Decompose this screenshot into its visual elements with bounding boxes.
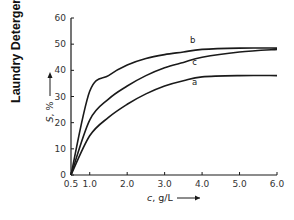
curve-b [71,48,277,175]
line-chart: 01020304050600.51.02.03.04.05.06.0c, g/L… [0,0,294,220]
y-tick-label: 30 [55,92,67,102]
curve-a [71,75,277,175]
y-tick-label: 40 [55,65,67,75]
x-tick-label: 1.0 [83,179,98,189]
y-tick-label: 50 [55,39,67,49]
chart-axes: 01020304050600.51.02.03.04.05.06.0c, g/L… [44,13,284,203]
x-tick-label: 0.5 [64,179,78,189]
x-axis-label: c, g/L [147,192,174,203]
y-arrow-head [48,72,53,78]
curve-label-b: b [190,35,195,45]
y-tick-label: 10 [55,144,67,154]
y-axis-label: S, % [44,101,55,122]
x-tick-label: 5.0 [232,179,247,189]
chart-curves [71,48,277,175]
curve-c [71,49,277,175]
x-tick-label: 4.0 [195,179,210,189]
x-arrow-head [195,196,200,201]
curve-label-c: c [192,57,197,67]
x-tick-label: 2.0 [120,179,135,189]
x-tick-label: 6.0 [270,179,285,189]
y-tick-label: 60 [55,13,67,23]
y-tick-label: 20 [55,118,67,128]
curve-label-a: a [192,77,197,87]
x-tick-label: 3.0 [157,179,172,189]
